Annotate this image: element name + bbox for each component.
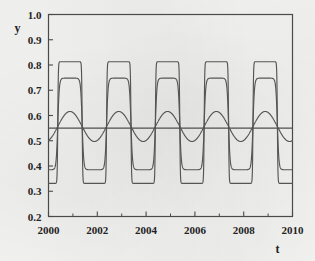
x-axis-title: t xyxy=(276,242,280,256)
ticks-group xyxy=(49,15,293,217)
x-tick-label: 2010 xyxy=(282,224,305,236)
y-tick-label: 0.3 xyxy=(28,185,42,197)
x-tick-label: 2000 xyxy=(38,224,61,236)
axis-titles-group: yt xyxy=(15,21,280,256)
y-tick-label: 0.8 xyxy=(28,59,42,71)
chart-svg: 0.20.30.40.50.60.70.80.91.02000200220042… xyxy=(0,0,315,261)
x-tick-label: 2008 xyxy=(233,224,256,236)
series-middle-rounded-wave xyxy=(49,78,293,170)
x-tick-label: 2006 xyxy=(184,224,207,236)
tick-labels-group: 0.20.30.40.50.60.70.80.91.02000200220042… xyxy=(28,9,304,236)
series-group xyxy=(49,62,293,184)
y-tick-label: 0.7 xyxy=(28,84,42,96)
plot-frame xyxy=(49,15,293,217)
series-inner-sine-wave xyxy=(49,111,293,141)
y-tick-label: 1.0 xyxy=(28,9,42,21)
x-tick-label: 2002 xyxy=(86,224,109,236)
y-tick-label: 0.4 xyxy=(28,160,42,172)
y-tick-label: 0.5 xyxy=(28,135,42,147)
x-tick-label: 2004 xyxy=(135,224,158,236)
chart-figure: 0.20.30.40.50.60.70.80.91.02000200220042… xyxy=(0,0,315,261)
y-tick-label: 0.6 xyxy=(28,110,42,122)
axes-group xyxy=(49,15,293,217)
y-axis-title: y xyxy=(15,21,21,35)
y-tick-label: 0.2 xyxy=(28,211,42,223)
y-tick-label: 0.9 xyxy=(28,34,42,46)
